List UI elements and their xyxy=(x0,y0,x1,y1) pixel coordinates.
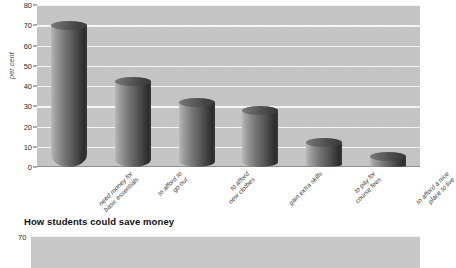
bar-6 xyxy=(370,157,406,167)
gridline xyxy=(37,86,420,87)
axis-baseline xyxy=(37,166,420,167)
gridline xyxy=(37,25,420,26)
bar-cylinder-top xyxy=(179,98,215,107)
bar-cylinder-top xyxy=(242,106,278,115)
bar-cylinder-body xyxy=(242,110,278,167)
bar-3 xyxy=(179,102,215,167)
y-axis-tick-mark xyxy=(33,5,37,6)
x-axis-label-5: to pay forcourse fees xyxy=(348,170,383,205)
gridline xyxy=(37,5,420,6)
y-axis-tick-label: 50 xyxy=(24,61,32,70)
x-axis-label-2: to afford togo out xyxy=(156,170,189,203)
y-axis-tick-label: 20 xyxy=(24,122,32,131)
bar-4 xyxy=(242,110,278,167)
gridline xyxy=(37,147,420,148)
bar-cylinder-body xyxy=(51,25,87,167)
bar-cylinder-top xyxy=(51,21,87,30)
gridline xyxy=(37,106,420,107)
chart-how-students-could-save-money: How students could save money 70 xyxy=(0,212,427,256)
y-axis-tick-label: 60 xyxy=(24,41,32,50)
gridline xyxy=(37,66,420,67)
gridline xyxy=(37,127,420,128)
chart2-y-axis-tick-label: 70 xyxy=(18,233,26,242)
x-axis-label-1: need money forbasic essentials xyxy=(96,170,140,214)
y-axis-tick-mark xyxy=(33,25,37,26)
y-axis-tick-label: 10 xyxy=(24,142,32,151)
y-axis-tick-label: 80 xyxy=(24,1,32,10)
y-axis-tick-mark xyxy=(33,167,37,168)
chart2-title: How students could save money xyxy=(24,216,174,227)
bar-1 xyxy=(51,25,87,167)
y-axis-tick-labels: 01020304050607080 xyxy=(12,0,32,172)
chart-students-reasons-to-work: per cent 01020304050607080 need money fo… xyxy=(0,0,427,212)
x-axis-label-4: gain extra skills xyxy=(287,170,324,207)
y-axis-tick-mark xyxy=(33,106,37,107)
bar-cylinder-body xyxy=(115,82,151,167)
chart2-plot-area xyxy=(31,236,420,268)
y-axis-tick-label: 70 xyxy=(24,21,32,30)
x-axis-category-labels: need money forbasic essentialsto afford … xyxy=(37,170,420,212)
y-axis-tick-label: 40 xyxy=(24,82,32,91)
y-axis-tick-label: 0 xyxy=(28,163,32,172)
bar-cylinder-body xyxy=(179,102,215,167)
bar-2 xyxy=(115,82,151,167)
bar-5 xyxy=(306,143,342,167)
x-axis-label-3: to affordnew clothes xyxy=(221,170,257,206)
y-axis-tick-mark xyxy=(33,65,37,66)
gridline xyxy=(37,46,420,47)
y-axis-tick-mark xyxy=(33,146,37,147)
plot-area xyxy=(37,5,420,167)
y-axis-tick-mark xyxy=(33,126,37,127)
y-axis-tick-mark xyxy=(33,45,37,46)
y-axis-tick-label: 30 xyxy=(24,102,32,111)
gridline xyxy=(31,236,420,237)
y-axis-tick-mark xyxy=(33,86,37,87)
x-axis-label-6: to afford a niceplace to live xyxy=(415,170,456,212)
